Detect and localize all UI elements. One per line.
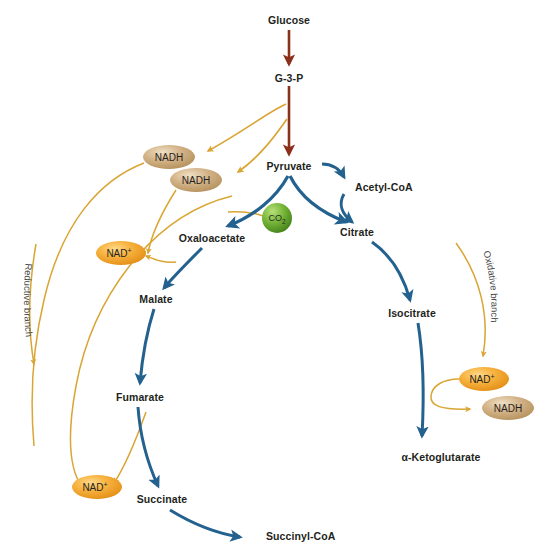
arrow-malate-to-fumarate [140, 309, 154, 383]
curve-fumarate-to-nad-succinate [114, 412, 146, 483]
arrow-acetylcoa-to-citrate [341, 194, 352, 222]
cofactor-nadh-isocitrate: NADH [482, 396, 534, 420]
metabolite-label-acetyl-coa: Acetyl-CoA [355, 181, 413, 193]
metabolite-label-malate: Malate [139, 293, 172, 305]
pathway-canvas: CO2 NADH NADH NAD+ NAD+ NAD+ NADH Glucos… [0, 0, 546, 559]
metabolite-label-isocitrate: Isocitrate [388, 307, 436, 319]
arrow-pyruvate-to-citrate [290, 176, 346, 222]
arrow-fumarate-to-succinate [138, 407, 158, 486]
arrow-oxaloacetate-to-malate [164, 248, 202, 288]
curve-malate-to-nad [146, 256, 176, 262]
metabolite-label-glucose: Glucose [268, 14, 310, 26]
pathway-diagram: CO2 NADH NADH NAD+ NAD+ NAD+ NADH Glucos… [0, 0, 546, 559]
curve-isocitrate-to-nadh [431, 396, 470, 409]
curve-co2-feed [228, 212, 263, 216]
cofactor-label: NADH [155, 152, 183, 163]
metabolite-label-g3p: G-3-P [275, 72, 304, 84]
co2-node: CO2 [262, 203, 292, 233]
cofactor-nadh-glycolysis-2: NADH [170, 168, 222, 192]
metabolite-label-succinate: Succinate [137, 493, 188, 505]
cofactor-nad-succinate: NAD+ [72, 475, 122, 499]
arrow-citrate-to-isocitrate [372, 242, 410, 300]
curve-nadh2-to-nad-malate [148, 190, 176, 253]
metabolite-label-fumarate: Fumarate [116, 391, 164, 403]
cofactor-nad-malate: NAD+ [96, 241, 146, 265]
curve-nad-into-isocitrate [431, 379, 459, 396]
metabolite-label-succinyl-coa: Succinyl-CoA [266, 530, 336, 542]
arrow-succinate-to-succinylcoa [170, 510, 240, 537]
metabolite-label-oxaloacetate: Oxaloacetate [179, 232, 246, 244]
metabolite-label-citrate: Citrate [340, 226, 374, 238]
arrow-to-nadh-glycolysis-1 [208, 104, 286, 151]
cofactor-nad-isocitrate: NAD+ [459, 367, 509, 391]
metabolite-label-pyruvate: Pyruvate [266, 160, 311, 172]
arrow-isocitrate-to-ketoglutarate [418, 323, 423, 436]
metabolite-label-ketoglutarate: α-Ketoglutarate [401, 451, 480, 463]
branch-label-reductive: Reductive branch [22, 263, 35, 337]
cofactor-nadh-glycolysis-1: NADH [143, 145, 195, 169]
cofactor-label: NADH [182, 175, 210, 186]
arrow-pyruvate-to-acetylcoa [322, 164, 344, 177]
arrow-oxidative-branch [456, 243, 485, 356]
curve-nadh1-to-reductive [32, 163, 144, 446]
cofactor-arrows [30, 104, 485, 487]
cofactor-label: NADH [494, 403, 522, 414]
